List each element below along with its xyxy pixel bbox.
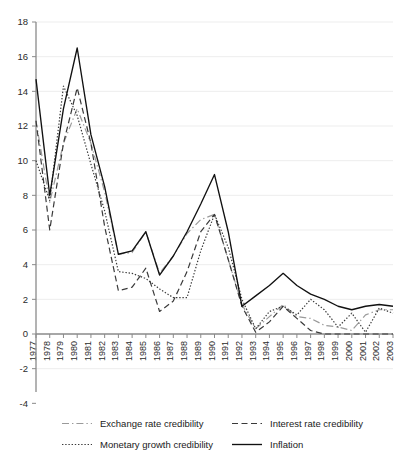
series-line-3 xyxy=(36,48,393,310)
y-tick-label: 4 xyxy=(23,259,28,270)
x-tick-label: 1987 xyxy=(165,341,175,361)
series-group xyxy=(36,48,393,334)
x-tick-label: 1999 xyxy=(330,341,340,361)
x-tick-label: 1996 xyxy=(289,341,299,361)
x-tick-label: 2003 xyxy=(385,341,395,361)
x-tick-label: 1997 xyxy=(303,341,313,361)
x-tick-label: 1985 xyxy=(138,341,148,361)
y-tick-label: 0 xyxy=(23,328,28,339)
x-tick-label: 1988 xyxy=(179,341,189,361)
x-tick-label: 1984 xyxy=(124,341,134,361)
x-tick-label: 1993 xyxy=(248,341,258,361)
y-tick-label: -4 xyxy=(20,398,28,409)
x-tick-label: 1990 xyxy=(207,341,217,361)
x-tick-label: 2000 xyxy=(344,341,354,361)
x-tick-label: 2001 xyxy=(358,341,368,361)
x-tick-label: 1992 xyxy=(234,341,244,361)
x-tick-label: 1991 xyxy=(220,341,230,361)
x-tick-label: 1978 xyxy=(42,341,52,361)
y-axis-labels-group: 181614121086420-2-4 xyxy=(17,16,28,408)
y-tick-label: 14 xyxy=(17,86,28,97)
x-tick-label: 1998 xyxy=(316,341,326,361)
x-tick-label: 1995 xyxy=(275,341,285,361)
series-line-0 xyxy=(36,109,393,331)
x-tick-label: 1989 xyxy=(193,341,203,361)
x-tick-label: 1986 xyxy=(152,341,162,361)
x-tick-label: 1979 xyxy=(55,341,65,361)
y-tick-label: 18 xyxy=(17,16,28,27)
y-tick-label: 2 xyxy=(23,294,28,305)
y-tick-label: 16 xyxy=(17,51,28,62)
legend-label-0: Exchange rate credibility xyxy=(100,418,204,429)
y-tick-label: 6 xyxy=(23,224,28,235)
legend-label-1: Interest rate credibility xyxy=(270,418,363,429)
line-chart: 181614121086420-2-4 19771978197919801981… xyxy=(0,0,410,465)
legend-label-2: Monetary growth credibility xyxy=(100,439,213,450)
y-tick-label: 10 xyxy=(17,155,28,166)
x-axis-labels-group: 1977197819791980198119821983198419851986… xyxy=(28,341,395,361)
y-tick-label: -2 xyxy=(20,363,28,374)
y-tick-label: 12 xyxy=(17,120,28,131)
chart-legend: Exchange rate credibilityInterest rate c… xyxy=(62,418,363,450)
gridlines-group xyxy=(36,22,393,369)
x-tick-label: 1980 xyxy=(69,341,79,361)
x-tick-label: 1994 xyxy=(261,341,271,361)
y-tick-label: 8 xyxy=(23,190,28,201)
legend-label-3: Inflation xyxy=(270,439,303,450)
chart-canvas: 181614121086420-2-4 19771978197919801981… xyxy=(0,0,410,465)
x-tick-label: 1982 xyxy=(97,341,107,361)
x-tick-label: 1983 xyxy=(110,341,120,361)
x-tick-label: 2002 xyxy=(371,341,381,361)
x-tick-label: 1981 xyxy=(83,341,93,361)
